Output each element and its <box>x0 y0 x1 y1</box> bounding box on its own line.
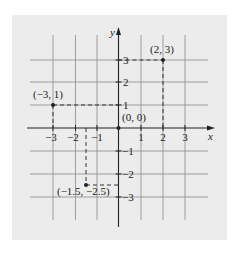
point-neg3-1 <box>51 103 55 107</box>
x-tick-label: 2 <box>160 131 166 143</box>
point-label-neg3-1: (−3, 1) <box>33 88 63 101</box>
x-tick-label: −1 <box>91 131 103 143</box>
point-label-2-3: (2, 3) <box>150 43 174 56</box>
y-tick-label: 1 <box>123 99 129 111</box>
x-tick-labels: −3 −2 −1 1 2 3 <box>45 131 188 143</box>
point-origin <box>117 126 121 130</box>
y-tick-label: −3 <box>122 191 134 203</box>
point-label-neg1.5-neg2.5: (−1.5, −2.5) <box>57 185 110 198</box>
x-axis-label: x <box>207 130 213 142</box>
x-tick-label: 1 <box>138 131 144 143</box>
y-tick-label: 3 <box>123 54 129 66</box>
x-tick-label: 3 <box>182 131 188 143</box>
point-label-origin: (0, 0) <box>122 111 146 124</box>
y-tick-label: −1 <box>122 145 134 157</box>
y-tick-label: −2 <box>122 168 134 180</box>
y-tick-label: 2 <box>123 76 129 88</box>
points <box>51 58 165 187</box>
y-axis-label: y <box>109 26 115 38</box>
x-tick-label: −3 <box>45 131 57 143</box>
point-labels: (2, 3) (−3, 1) (0, 0) (−1.5, −2.5) <box>33 43 174 198</box>
coordinate-plane: −3 −2 −1 1 2 3 3 2 1 −1 −2 −3 x y (2, 3)… <box>0 0 240 254</box>
x-tick-label: −2 <box>67 131 79 143</box>
projection-lines <box>53 60 163 185</box>
point-2-3 <box>161 58 165 62</box>
y-axis-arrow-icon <box>116 27 121 35</box>
